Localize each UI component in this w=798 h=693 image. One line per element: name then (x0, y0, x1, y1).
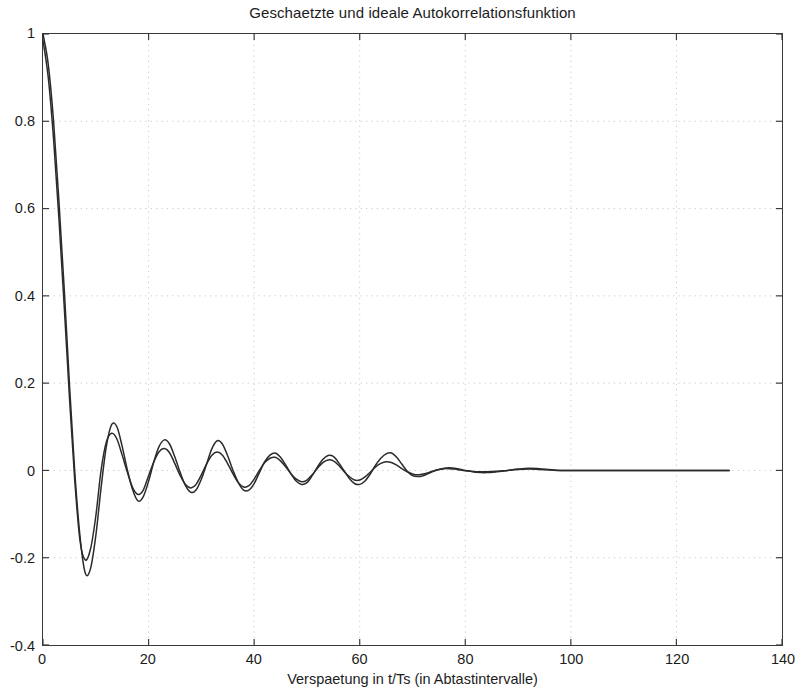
x-tick-label: 80 (457, 651, 473, 667)
x-tick-label: 60 (351, 651, 367, 667)
x-tick-label: 40 (246, 651, 262, 667)
x-tick-label: 140 (771, 651, 795, 667)
y-axis-tick-labels: -0.4-0.200.20.40.60.81 (0, 33, 35, 646)
y-tick-label: 0.8 (15, 113, 35, 129)
plot-area (42, 33, 783, 646)
x-tick-label: 120 (665, 651, 689, 667)
data-series-line-1 (43, 41, 729, 561)
x-tick-label: 20 (140, 651, 156, 667)
x-axis-title: Verspaetung in t/Ts (in Abtastintervalle… (42, 671, 783, 687)
x-tick-label: 0 (38, 651, 46, 667)
y-tick-label: 1 (27, 25, 35, 41)
y-tick-label: -0.2 (10, 550, 35, 566)
y-tick-label: -0.4 (10, 638, 35, 654)
y-tick-label: 0.6 (15, 200, 35, 216)
page-title: Geschaetzte und ideale Autokorrelationsf… (42, 4, 783, 21)
x-tick-label: 100 (559, 651, 583, 667)
y-tick-label: 0 (27, 463, 35, 479)
y-tick-label: 0.2 (15, 375, 35, 391)
data-curves (43, 34, 782, 645)
x-axis-tick-labels: 020406080100120140 (42, 651, 783, 671)
figure-canvas: Geschaetzte und ideale Autokorrelationsf… (0, 0, 798, 693)
y-tick-label: 0.4 (15, 288, 35, 304)
data-series-line-0 (43, 34, 729, 576)
